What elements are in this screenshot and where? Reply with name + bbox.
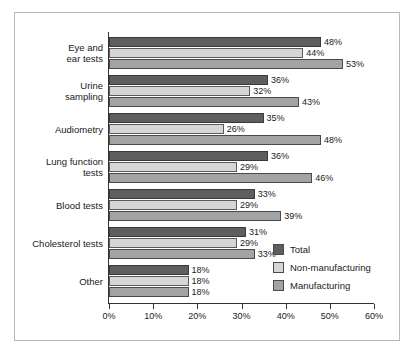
bar: [109, 59, 343, 69]
bar: [109, 276, 189, 286]
x-axis-tick-mark: [242, 304, 243, 309]
bar: [109, 238, 237, 248]
bar-value-label: 18%: [192, 276, 210, 286]
x-axis-tick-label: 30%: [232, 311, 250, 321]
bar-value-label: 46%: [315, 173, 333, 183]
bar-value-label: 33%: [258, 189, 276, 199]
x-axis-tick-mark: [109, 304, 110, 309]
legend-item[interactable]: Non-manufacturing: [273, 259, 393, 275]
bar: [109, 265, 189, 275]
bar: [109, 75, 268, 85]
legend-item[interactable]: Manufacturing: [273, 277, 393, 293]
bar: [109, 173, 312, 183]
x-axis-tick-label: 60%: [365, 311, 383, 321]
legend-label: Manufacturing: [290, 280, 350, 291]
bar-value-label: 39%: [284, 211, 302, 221]
chart-legend: TotalNon-manufacturingManufacturing: [273, 241, 393, 295]
bar: [109, 287, 189, 297]
bar-value-label: 31%: [249, 227, 267, 237]
bar-value-label: 48%: [324, 37, 342, 47]
bar-value-label: 36%: [271, 151, 289, 161]
bar: [109, 48, 303, 58]
bar: [109, 200, 237, 210]
bar: [109, 135, 321, 145]
bar-value-label: 53%: [346, 59, 364, 69]
y-axis-category-label: Blood tests: [7, 200, 103, 211]
bar-value-label: 29%: [240, 162, 258, 172]
bar: [109, 124, 224, 134]
y-axis-category-label: Other: [7, 276, 103, 287]
x-axis-tick-label: 20%: [188, 311, 206, 321]
x-axis-tick-mark: [153, 304, 154, 309]
x-axis-tick-mark: [197, 304, 198, 309]
y-axis-category-label: Cholesterol tests: [7, 238, 103, 249]
x-axis-tick-label: 50%: [321, 311, 339, 321]
bar-value-label: 29%: [240, 200, 258, 210]
x-axis-tick-label: 10%: [144, 311, 162, 321]
x-axis-tick-mark: [330, 304, 331, 309]
bar: [109, 113, 264, 123]
bar-value-label: 48%: [324, 135, 342, 145]
chart-plot-area: 0%10%20%30%40%50%60% Eye and ear testsUr…: [15, 13, 401, 342]
legend-label: Non-manufacturing: [290, 262, 371, 273]
y-axis-category-label: Lung function tests: [7, 156, 103, 178]
legend-swatch-icon: [273, 262, 284, 273]
x-axis-tick-mark: [286, 304, 287, 309]
bar-value-label: 43%: [302, 97, 320, 107]
x-axis-tick-label: 0%: [102, 311, 115, 321]
legend-swatch-icon: [273, 244, 284, 255]
legend-label: Total: [290, 244, 310, 255]
bar-value-label: 18%: [192, 287, 210, 297]
bar-value-label: 35%: [267, 113, 285, 123]
y-axis-category-label: Audiometry: [7, 124, 103, 135]
bar: [109, 189, 255, 199]
legend-swatch-icon: [273, 280, 284, 291]
bar: [109, 162, 237, 172]
bar: [109, 37, 321, 47]
bar-value-label: 26%: [227, 124, 245, 134]
y-axis-category-label: Eye and ear tests: [7, 42, 103, 64]
x-axis-tick-mark: [374, 304, 375, 309]
bar: [109, 249, 255, 259]
bar-value-label: 36%: [271, 75, 289, 85]
bar: [109, 97, 299, 107]
bar-value-label: 18%: [192, 265, 210, 275]
bar: [109, 151, 268, 161]
bar-value-label: 29%: [240, 238, 258, 248]
bar: [109, 86, 250, 96]
bar: [109, 227, 246, 237]
legend-item[interactable]: Total: [273, 241, 393, 257]
bar: [109, 211, 281, 221]
chart-frame: 0%10%20%30%40%50%60% Eye and ear testsUr…: [14, 12, 400, 341]
x-axis-tick-label: 40%: [277, 311, 295, 321]
y-axis-category-label: Urine sampling: [7, 80, 103, 102]
bar-value-label: 32%: [253, 86, 271, 96]
bar-value-label: 44%: [306, 48, 324, 58]
